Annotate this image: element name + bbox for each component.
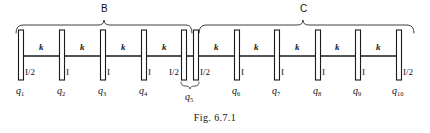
inertia-label-4: I [148, 68, 151, 77]
coordinate-label-q6: q6 [232, 86, 240, 96]
spring-label-k-8: k [335, 43, 340, 52]
spring-label-k-5: k [214, 43, 219, 52]
inertia-label-2: I [66, 68, 69, 77]
inertia-bars [19, 30, 402, 80]
coordinate-label-q5: q5 [185, 92, 193, 102]
spring-label-k-3: k [121, 43, 126, 52]
brace-q5 [181, 82, 199, 89]
spring-label-k-7: k [295, 43, 300, 52]
inertia-label-5a: I/2 [169, 68, 179, 77]
coordinate-label-q10: q10 [392, 86, 404, 96]
coordinate-label-q8: q8 [313, 86, 321, 96]
inertia-label-7: I [281, 68, 284, 77]
spring-label-k-6: k [254, 43, 259, 52]
spring-label-k-2: k [80, 43, 85, 52]
figure-6-7-1: B C k k k k k k k k k I/2 I I I I/2 I/2 … [0, 0, 430, 133]
group-label-c: C [300, 4, 307, 14]
inertia-label-9: I [362, 68, 365, 77]
coordinate-label-q4: q4 [139, 86, 147, 96]
spring-label-k-1: k [39, 43, 44, 52]
coordinate-label-q3: q3 [98, 86, 106, 96]
brace-group-c [199, 20, 414, 33]
spring-label-k-4: k [162, 43, 167, 52]
inertia-label-5b: I/2 [200, 68, 210, 77]
inertia-label-3: I [107, 68, 110, 77]
figure-caption: Fig. 6.7.1 [0, 112, 430, 123]
group-label-b: B [101, 4, 108, 14]
coordinate-label-q7: q7 [272, 86, 280, 96]
coordinate-label-q2: q2 [57, 86, 65, 96]
spring-label-k-9: k [376, 43, 381, 52]
inertia-label-1: I/2 [25, 68, 35, 77]
coordinate-label-q1: q1 [16, 86, 24, 96]
inertia-label-10: I/2 [403, 68, 413, 77]
inertia-label-6: I [241, 68, 244, 77]
coordinate-label-q9: q9 [353, 86, 361, 96]
inertia-label-8: I [322, 68, 325, 77]
